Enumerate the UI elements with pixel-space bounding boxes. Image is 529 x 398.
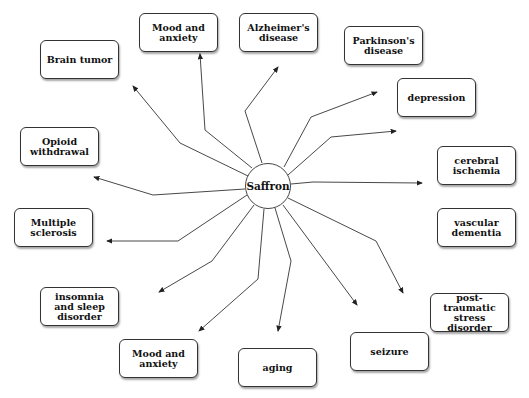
arrow-insomnia [159,205,254,292]
node-multiple-sclerosis: Multiple sclerosis [14,208,93,247]
saffron-node: Saffron [245,163,291,209]
arrow-brain-tumor [133,86,248,176]
arrow-seizure [283,205,357,305]
node-brain-tumor: Brain tumor [40,40,119,79]
node-opioid-withdrawal: Opioid withdrawal [20,127,99,166]
node-mood-anxiety-top: Mood and anxiety [139,13,218,52]
diagram-canvas: Saffron Brain tumor Mood and anxiety Alz… [0,0,529,398]
arrow-multiple-sclerosis [107,195,247,241]
arrow-ptsd [288,198,403,293]
arrow-mood-anxiety-top [200,54,252,168]
arrow-cerebral-ischemia [291,182,422,184]
node-ptsd: post-traumatic stress disorder [430,293,509,332]
node-vascular-dementia: vascular dementia [437,208,516,247]
node-alzheimers: Alzheimer's disease [239,13,318,52]
node-mood-anxiety-bottom: Mood and anxiety [119,339,198,378]
node-seizure: seizure [350,332,429,371]
arrow-parkinsons [284,92,377,167]
node-aging: aging [238,348,317,387]
node-depression: depression [397,78,476,117]
node-insomnia: insomnia and sleep disorder [40,287,119,326]
arrow-depression [288,131,396,175]
arrow-alzheimers [245,67,278,163]
arrow-opioid-withdrawal [94,177,245,195]
arrow-aging [275,208,291,331]
node-parkinsons: Parkinson's disease [344,26,423,65]
node-cerebral-ischemia: cerebral ischemia [437,146,516,185]
arrow-mood-anxiety-bottom [199,209,264,331]
